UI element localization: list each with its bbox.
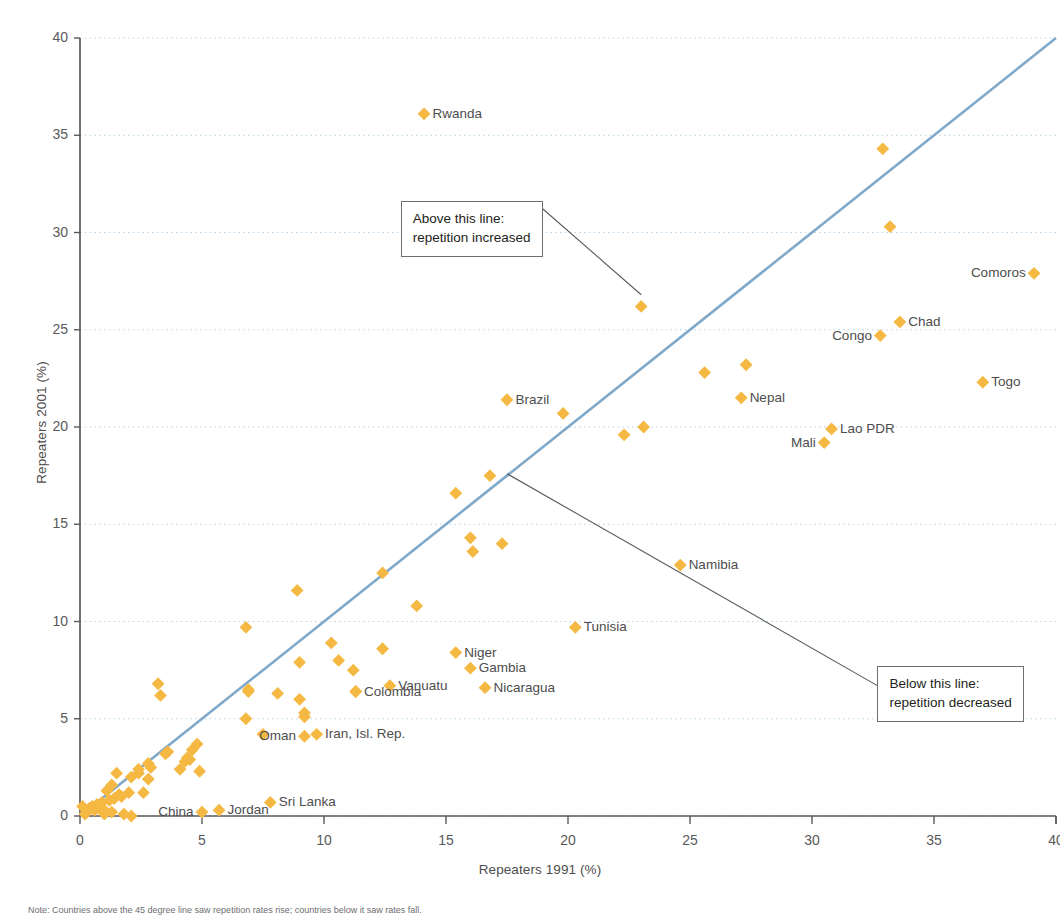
data-point-marker-43 (193, 765, 206, 778)
annotation-above-line-2: repetition increased (413, 228, 531, 248)
y-tick-label-10: 10 (34, 613, 68, 629)
data-point-marker-22 (152, 677, 165, 690)
data-point-label-brazil: Brazil (515, 393, 549, 407)
data-point-marker-28 (293, 693, 306, 706)
data-point-marker-tunisia (569, 621, 582, 634)
data-point-marker-27 (271, 687, 284, 700)
x-axis-title: Repeaters 1991 (%) (420, 862, 660, 877)
annotation-leader-lines (507, 209, 877, 686)
data-point-label-iran-isl-rep: Iran, Isl. Rep. (325, 727, 405, 741)
y-tick-label-25: 25 (34, 321, 68, 337)
data-point-marker-5 (637, 421, 650, 434)
data-point-label-congo: Congo (832, 329, 872, 343)
data-point-label-jordan: Jordan (227, 803, 268, 817)
data-point-marker-17 (325, 636, 338, 649)
x-tick-label-15: 15 (426, 832, 466, 848)
data-point-marker-oman (298, 730, 311, 743)
data-point-marker-8 (484, 469, 497, 482)
data-point-marker-0 (876, 142, 889, 155)
data-point-label-nepal: Nepal (750, 391, 785, 405)
data-point-marker-15 (291, 584, 304, 597)
y-tick-label-15: 15 (34, 515, 68, 531)
y-tick-label-20: 20 (34, 418, 68, 434)
data-point-label-togo: Togo (991, 375, 1020, 389)
data-point-marker-comoros (1028, 267, 1041, 280)
data-point-marker-mali (818, 436, 831, 449)
data-point-label-comoros: Comoros (971, 266, 1026, 280)
data-point-marker-gambia (464, 662, 477, 675)
data-point-marker-6 (618, 428, 631, 441)
data-point-marker-45 (110, 767, 123, 780)
annotation-above-line-1: Above this line: (413, 209, 531, 229)
data-point-label-gambia: Gambia (479, 661, 526, 675)
data-point-marker-7 (557, 407, 570, 420)
data-point-marker-14 (410, 600, 423, 613)
y-tick-label-5: 5 (34, 710, 68, 726)
data-point-marker-chad (893, 316, 906, 329)
leader-line-above (543, 209, 642, 295)
data-point-marker-togo (976, 376, 989, 389)
data-point-marker-3 (698, 366, 711, 379)
data-point-marker-12 (496, 537, 509, 550)
data-point-marker-2 (635, 300, 648, 313)
data-point-marker-4 (740, 358, 753, 371)
data-point-marker-niger (449, 646, 462, 659)
data-point-marker-lao-pdr (825, 423, 838, 436)
data-point-marker-20 (293, 656, 306, 669)
data-point-marker-11 (466, 545, 479, 558)
data-point-marker-congo (874, 329, 887, 342)
data-point-marker-namibia (674, 559, 687, 572)
data-point-marker-48 (142, 773, 155, 786)
x-tick-label-5: 5 (182, 832, 222, 848)
data-point-marker-jordan (213, 804, 226, 817)
data-point-marker-10 (464, 531, 477, 544)
x-tick-label-20: 20 (548, 832, 588, 848)
x-tick-label-35: 35 (914, 832, 954, 848)
data-point-marker-23 (154, 689, 167, 702)
figure-footnote: Note: Countries above the 45 degree line… (28, 904, 1028, 918)
data-point-marker-16 (240, 621, 253, 634)
x-tick-label-0: 0 (60, 832, 100, 848)
scatter-chart-figure: Repeaters 2001 (%) Repeaters 1991 (%) 05… (0, 0, 1060, 918)
data-point-label-colombia: Colombia (364, 685, 421, 699)
data-point-label-chad: Chad (908, 315, 940, 329)
data-point-marker-nepal (735, 391, 748, 404)
x-tick-label-25: 25 (670, 832, 710, 848)
data-point-label-nicaragua: Nicaragua (493, 681, 555, 695)
data-point-marker-colombia (349, 685, 362, 698)
annotation-below-line-1: Below this line: (889, 674, 1011, 694)
plot-canvas (0, 0, 1060, 918)
y-tick-label-40: 40 (34, 29, 68, 45)
data-point-marker-9 (449, 487, 462, 500)
data-point-marker-brazil (501, 393, 514, 406)
data-point-label-lao-pdr: Lao PDR (840, 422, 895, 436)
data-point-label-niger: Niger (464, 646, 496, 660)
x-tick-label-40: 40 (1036, 832, 1060, 848)
data-point-label-china: China (158, 805, 193, 819)
data-point-label-rwanda: Rwanda (432, 107, 482, 121)
data-point-label-namibia: Namibia (689, 558, 739, 572)
data-point-marker-1 (884, 220, 897, 233)
y-tick-label-30: 30 (34, 224, 68, 240)
annotation-below-line-2: repetition decreased (889, 693, 1011, 713)
data-point-label-oman: Oman (259, 729, 296, 743)
data-point-label-mali: Mali (791, 436, 816, 450)
data-point-label-tunisia: Tunisia (584, 620, 627, 634)
y-tick-label-0: 0 (34, 807, 68, 823)
annotation-below-line: Below this line: repetition decreased (877, 666, 1023, 722)
data-point-marker-19 (332, 654, 345, 667)
data-point-marker-31 (240, 712, 253, 725)
data-point-marker-18 (376, 642, 389, 655)
data-point-label-sri-lanka: Sri Lanka (279, 795, 336, 809)
data-point-marker-rwanda (418, 107, 431, 120)
data-point-marker-25 (242, 685, 255, 698)
leader-line-below (507, 474, 877, 686)
data-point-marker-21 (347, 664, 360, 677)
data-point-marker-nicaragua (479, 681, 492, 694)
annotation-above-line: Above this line: repetition increased (401, 201, 543, 257)
x-tick-label-30: 30 (792, 832, 832, 848)
x-tick-label-10: 10 (304, 832, 344, 848)
y-tick-label-35: 35 (34, 126, 68, 142)
data-point-marker-iran-isl-rep (310, 728, 323, 741)
data-point-marker-52 (137, 786, 150, 799)
